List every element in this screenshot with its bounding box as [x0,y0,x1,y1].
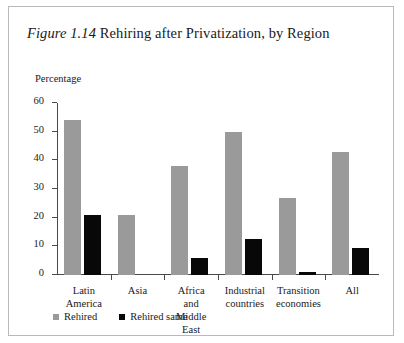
legend-label: Rehired same [130,311,187,322]
bar-rehired-same[interactable] [245,239,262,275]
x-axis-tick [164,275,165,280]
bar-rehired[interactable] [64,120,81,275]
bar-group: All [325,103,379,275]
bar-rehired[interactable] [225,132,242,275]
bar-group: Asia [111,103,165,275]
bar-rehired[interactable] [171,166,188,275]
x-axis-category-label: Industrial countries [225,284,265,310]
legend-item[interactable]: Rehired [53,311,97,322]
bar-group: Africa and Middle East [164,103,218,275]
legend-label: Rehired [64,311,97,322]
legend-item[interactable]: Rehired same [119,311,187,322]
bar-group: Latin America [57,103,111,275]
figure-title-text: Rehiring after Privatization, by Region [96,25,330,41]
x-axis-tick [218,275,219,280]
x-axis-category-label: Latin America [66,284,102,310]
figure-number: Figure 1.14 [27,25,96,41]
bar-rehired[interactable] [118,215,135,275]
x-axis-category-label: Africa and Middle East [176,284,206,336]
bar-group: Transition economies [272,103,326,275]
bar-rehired-same[interactable] [299,272,316,275]
bar-rehired-same[interactable] [84,215,101,275]
x-axis-category-label: Asia [128,284,147,297]
y-axis-tick-label: 10 [34,238,45,249]
x-axis-category-label: Transition economies [276,284,321,310]
x-axis-tick [272,275,273,280]
bar-rehired-same[interactable] [352,248,369,275]
figure-title: Figure 1.14 Rehiring after Privatization… [27,25,330,42]
y-axis-tick-label: 50 [34,124,45,135]
x-axis-tick [325,275,326,280]
y-axis-tick-label: 20 [34,210,45,221]
bar-chart-plot-area: 0102030405060 Latin AmericaAsiaAfrica an… [57,103,379,275]
legend-swatch-icon [119,314,125,320]
x-axis-tick [111,275,112,280]
bar-group: Industrial countries [218,103,272,275]
bar-rehired-same[interactable] [191,258,208,275]
x-axis-category-label: All [345,284,358,297]
y-axis-tick-label: 0 [39,267,44,278]
figure-frame: Figure 1.14 Rehiring after Privatization… [8,6,394,336]
chart-legend: RehiredRehired same [53,311,188,322]
y-axis-tick-label: 60 [34,95,45,106]
legend-swatch-icon [53,314,59,320]
y-axis-title: Percentage [35,73,81,84]
bar-rehired[interactable] [279,198,296,275]
y-axis-tick-label: 30 [34,181,45,192]
y-axis-tick-label: 40 [34,152,45,163]
bar-rehired[interactable] [332,152,349,275]
